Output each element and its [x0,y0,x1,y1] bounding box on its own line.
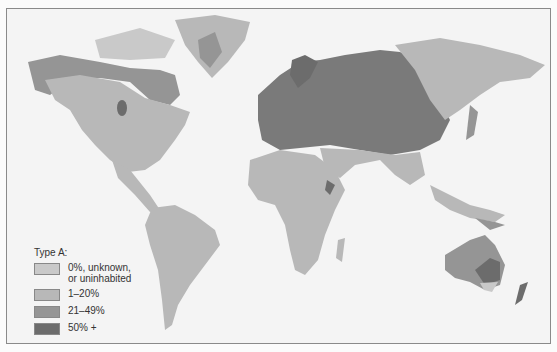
legend-label: 1–20% [68,288,138,299]
legend-item: 0%, unknown, or uninhabited [10,262,140,284]
legend-swatch [34,289,60,301]
legend-label: 50% + [68,322,138,333]
region-africa [248,150,345,275]
legend-label: 21–49% [68,305,138,316]
legend-swatch [34,263,60,275]
legend: Type A: 0%, unknown, or uninhabited 1–20… [10,247,140,335]
legend-item: 1–20% [10,288,140,301]
legend-item: 50% + [10,322,140,335]
legend-swatch [34,306,60,318]
legend-swatch [34,323,60,335]
region-south-america [145,205,220,330]
legend-title: Type A: [34,247,140,258]
legend-label: 0%, unknown, or uninhabited [68,262,138,284]
legend-item: 21–49% [10,305,140,318]
